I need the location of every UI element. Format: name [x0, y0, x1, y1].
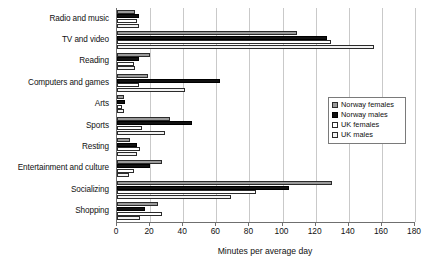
bar-group — [117, 8, 415, 29]
legend-item: Norway females — [332, 100, 402, 110]
bar — [117, 169, 134, 173]
bar — [117, 79, 220, 83]
category-label: Radio and music — [0, 8, 113, 29]
x-tick-label: 100 — [275, 227, 289, 235]
category-label: Resting — [0, 136, 113, 157]
bar — [117, 24, 139, 28]
gray-swatch — [332, 102, 338, 108]
bar — [117, 160, 162, 164]
bar — [117, 36, 327, 40]
bar — [117, 202, 158, 206]
bar — [117, 14, 139, 18]
bar — [117, 74, 148, 78]
bar — [117, 212, 162, 216]
bar — [117, 143, 137, 147]
black-swatch — [332, 112, 338, 118]
bar — [117, 105, 122, 109]
bar — [117, 57, 139, 61]
bar-group — [117, 158, 415, 179]
bar — [117, 31, 297, 35]
bar — [117, 152, 137, 156]
bar-group — [117, 179, 415, 200]
bar-group — [117, 51, 415, 72]
bar-group — [117, 72, 415, 93]
x-tick-label: 0 — [114, 227, 119, 235]
bar — [117, 66, 135, 70]
bar — [117, 95, 124, 99]
bar — [117, 147, 140, 151]
category-label: TV and video — [0, 29, 113, 50]
legend-label: UK females — [341, 121, 379, 128]
bar — [117, 117, 170, 121]
bar-chart: Radio and musicTV and videoReadingComput… — [0, 0, 448, 271]
legend-item: UK females — [332, 120, 402, 130]
bar — [117, 53, 150, 57]
bar — [117, 195, 231, 199]
legend-label: Norway males — [341, 111, 388, 118]
category-label: Reading — [0, 51, 113, 72]
bar — [117, 121, 192, 125]
bar — [117, 126, 142, 130]
bar — [117, 40, 331, 44]
bar — [117, 173, 129, 177]
bar — [117, 19, 137, 23]
category-label: Arts — [0, 94, 113, 115]
bar — [117, 100, 125, 104]
x-tick-label: 60 — [211, 227, 220, 235]
legend-item: Norway males — [332, 110, 402, 120]
x-tick-label: 120 — [308, 227, 322, 235]
legend-item: UK males — [332, 130, 402, 140]
x-tick-label: 80 — [244, 227, 253, 235]
x-axis-title: Minutes per average day — [116, 246, 414, 256]
x-tick-label: 180 — [407, 227, 421, 235]
x-axis-ticks: 020406080100120140160180 — [116, 222, 414, 240]
bar — [117, 207, 145, 211]
bar — [117, 190, 256, 194]
category-axis-labels: Radio and musicTV and videoReadingComput… — [0, 8, 113, 222]
category-label: Socializing — [0, 179, 113, 200]
bar — [117, 164, 150, 168]
x-tick-label: 20 — [144, 227, 153, 235]
category-label: Sports — [0, 115, 113, 136]
white-swatch — [332, 122, 338, 128]
x-tick-label: 40 — [178, 227, 187, 235]
bar-group — [117, 29, 415, 50]
gridline — [415, 8, 416, 222]
bar-group — [117, 201, 415, 222]
light-swatch — [332, 132, 338, 138]
bar — [117, 62, 134, 66]
x-tick-label: 140 — [341, 227, 355, 235]
legend-label: UK males — [341, 131, 373, 138]
bar — [117, 88, 185, 92]
bar — [117, 131, 165, 135]
bar — [117, 138, 130, 142]
chart-legend: Norway femalesNorway malesUK femalesUK m… — [328, 97, 406, 144]
x-tick-label: 160 — [374, 227, 388, 235]
bar — [117, 10, 135, 14]
bar — [117, 83, 139, 87]
bar — [117, 109, 124, 113]
legend-label: Norway females — [341, 101, 394, 108]
bar — [117, 45, 374, 49]
category-label: Entertainment and culture — [0, 158, 113, 179]
bar — [117, 181, 332, 185]
bar — [117, 216, 140, 220]
bar — [117, 186, 289, 190]
category-label: Shopping — [0, 201, 113, 222]
category-label: Computers and games — [0, 72, 113, 93]
